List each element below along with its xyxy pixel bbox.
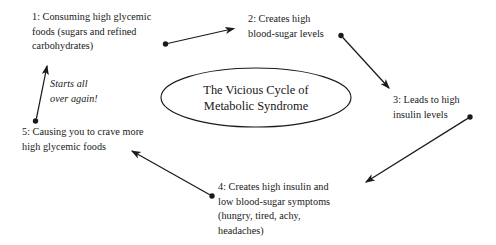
- center-ellipse-label: The Vicious Cycle of Metabolic Syndrome: [163, 82, 349, 115]
- arrow-3-to-4: [366, 114, 473, 182]
- step-4-label: 4: Creates high insulin and low blood-su…: [218, 180, 368, 238]
- step-2-label: 2: Creates high blood-sugar levels: [248, 12, 358, 41]
- step-5-label: 5: Causing you to crave more high glycem…: [22, 125, 182, 154]
- restart-annotation: Starts all over again!: [50, 76, 140, 106]
- step-3-label: 3: Leads to high insulin levels: [393, 93, 493, 122]
- step-1-label: 1: Consuming high glycemic foods (sugars…: [32, 10, 172, 54]
- cycle-diagram: The Vicious Cycle of Metabolic Syndrome …: [0, 0, 496, 245]
- arrow-1-to-2: [163, 29, 234, 47]
- arrow-4-to-5: [132, 151, 215, 199]
- arrow-5-to-1: [33, 66, 47, 124]
